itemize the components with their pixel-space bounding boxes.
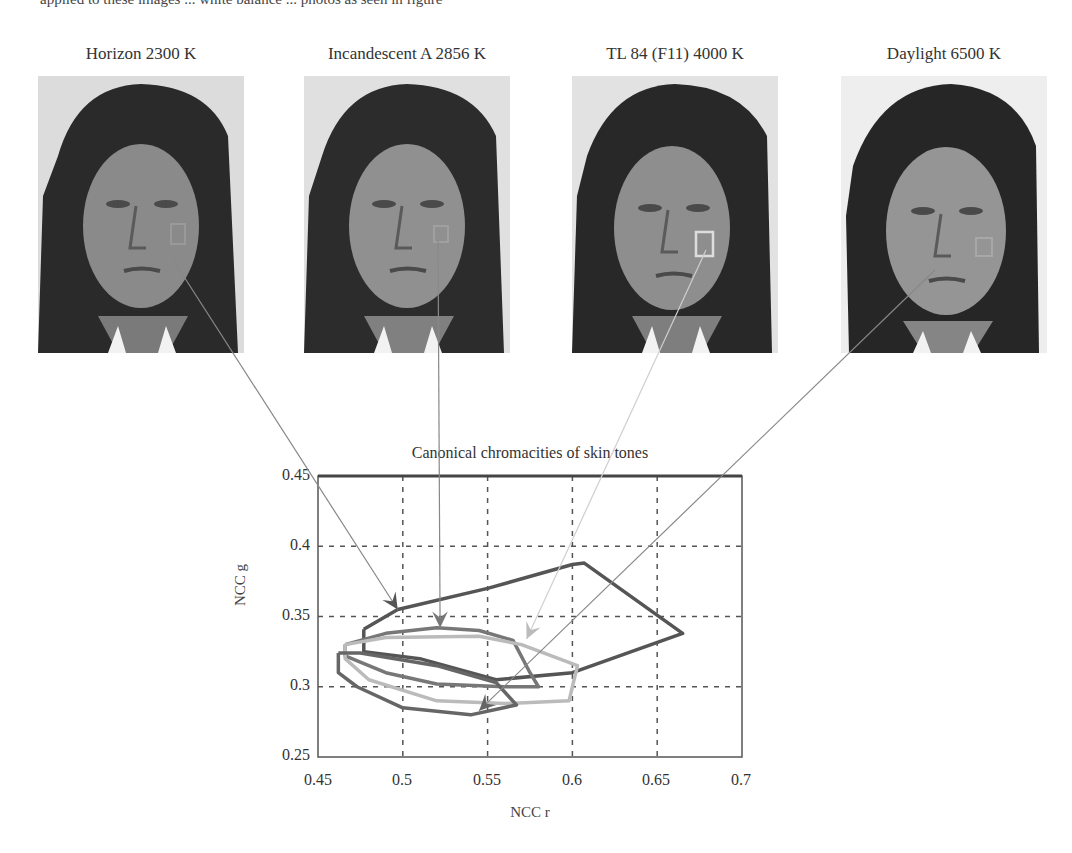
plot-frame bbox=[318, 476, 742, 757]
x-tick-0.55: 0.55 bbox=[457, 771, 517, 789]
photo-label-tl84: TL 84 (F11) 4000 K bbox=[545, 44, 805, 64]
face-photo-incandescent bbox=[304, 76, 510, 353]
y-tick-0.25: 0.25 bbox=[248, 746, 310, 764]
arrowhead-icon bbox=[382, 592, 397, 610]
photo-label-incandescent: Incandescent A 2856 K bbox=[277, 44, 537, 64]
x-tick-0.45: 0.45 bbox=[288, 771, 348, 789]
arrowhead-icon bbox=[526, 621, 540, 639]
arrowhead-icon bbox=[479, 694, 496, 711]
photo-label-daylight: Daylight 6500 K bbox=[814, 44, 1072, 64]
y-tick-0.35: 0.35 bbox=[248, 606, 310, 624]
series-line-2 bbox=[345, 636, 577, 703]
series-line-3 bbox=[338, 653, 516, 715]
y-axis-label: NCC g bbox=[232, 564, 249, 606]
chart-title: Canonical chromacities of skin tones bbox=[318, 444, 742, 462]
series-line-0 bbox=[364, 563, 683, 680]
face-photo-tl84 bbox=[572, 76, 778, 353]
arrowhead-icon bbox=[432, 611, 448, 627]
x-tick-0.65: 0.65 bbox=[626, 771, 686, 789]
x-tick-0.6: 0.6 bbox=[542, 771, 602, 789]
photo-label-horizon: Horizon 2300 K bbox=[11, 44, 271, 64]
clipped-body-text: applied to these images ... white balanc… bbox=[40, 0, 442, 8]
x-tick-0.5: 0.5 bbox=[372, 771, 432, 789]
series-line-1 bbox=[345, 628, 538, 687]
y-tick-0.3: 0.3 bbox=[248, 676, 310, 694]
x-axis-label: NCC r bbox=[318, 804, 742, 821]
y-tick-0.4: 0.4 bbox=[248, 536, 310, 554]
x-tick-0.7: 0.7 bbox=[711, 771, 771, 789]
face-photo-daylight bbox=[841, 76, 1047, 353]
face-photo-horizon bbox=[38, 76, 244, 353]
y-tick-0.45: 0.45 bbox=[248, 466, 310, 484]
